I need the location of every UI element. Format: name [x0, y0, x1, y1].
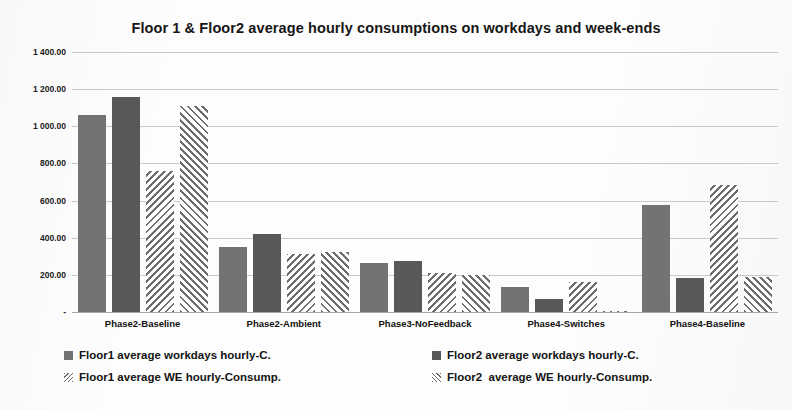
bar[interactable] [569, 282, 597, 312]
y-tick-label: 1 000.00 [6, 121, 66, 131]
y-tick-label: 800.00 [6, 158, 66, 168]
bar[interactable] [321, 252, 349, 312]
legend-label: Floor2 average workdays hourly-C. [447, 349, 639, 361]
axis-baseline [72, 312, 778, 313]
bar[interactable] [744, 277, 772, 312]
x-axis-category-label: Phase4-Baseline [670, 318, 746, 329]
bar-group [78, 52, 208, 312]
legend-item[interactable]: Floor1 average WE hourly-Consump. [64, 366, 281, 388]
legend-swatch-hatch-backslash-icon [64, 373, 73, 382]
legend-label: Floor1 average WE hourly-Consump. [79, 371, 281, 383]
y-tick-label: 1 200.00 [6, 84, 66, 94]
y-tick-label: 600.00 [6, 196, 66, 206]
legend-item[interactable]: Floor2 average WE hourly-Consump. [432, 366, 652, 388]
bar[interactable] [253, 234, 281, 312]
legend-column-floor2: Floor2 average workdays hourly-C. Floor2… [432, 344, 652, 388]
plot-area: 1 400.001 200.001 000.00800.00600.00400.… [72, 52, 778, 312]
y-tick-label: 400.00 [6, 233, 66, 243]
bar[interactable] [428, 273, 456, 312]
bar[interactable] [180, 106, 208, 312]
bar-group [360, 52, 490, 312]
y-tick-label: 200.00 [6, 270, 66, 280]
chart-title: Floor 1 & Floor2 average hourly consumpt… [0, 20, 792, 36]
legend-item[interactable]: Floor1 average workdays hourly-C. [64, 344, 281, 366]
y-tick-label: 1 400.00 [6, 47, 66, 57]
bar[interactable] [676, 278, 704, 312]
x-axis-category-label: Phase3-NoFeedback [379, 318, 472, 329]
bar[interactable] [642, 205, 670, 312]
x-axis-category-label: Phase2-Ambient [247, 318, 321, 329]
legend-swatch-solid-dark-icon [432, 351, 441, 360]
chart-legend: Floor1 average workdays hourly-C. Floor1… [0, 344, 792, 402]
bar[interactable] [603, 311, 631, 312]
bar[interactable] [501, 287, 529, 312]
bar-group [501, 52, 631, 312]
chart-page: Floor 1 & Floor2 average hourly consumpt… [0, 0, 792, 410]
bar[interactable] [710, 185, 738, 312]
legend-swatch-solid-medium-icon [64, 351, 73, 360]
y-tick-label: - [6, 307, 66, 317]
bar-group [642, 52, 772, 312]
bar[interactable] [219, 247, 247, 312]
x-axis-category-label: Phase4-Switches [527, 318, 605, 329]
legend-swatch-hatch-slash-icon [432, 373, 441, 382]
legend-label: Floor1 average workdays hourly-C. [79, 349, 271, 361]
bar[interactable] [78, 115, 106, 312]
bar[interactable] [146, 171, 174, 312]
bar[interactable] [360, 263, 388, 312]
bar[interactable] [112, 97, 140, 312]
legend-label: Floor2 average WE hourly-Consump. [447, 371, 652, 383]
x-axis-category-label: Phase2-Baseline [105, 318, 181, 329]
legend-item[interactable]: Floor2 average workdays hourly-C. [432, 344, 652, 366]
bar[interactable] [535, 299, 563, 312]
legend-column-floor1: Floor1 average workdays hourly-C. Floor1… [64, 344, 281, 388]
bar-group [219, 52, 349, 312]
bar[interactable] [394, 261, 422, 312]
bar[interactable] [287, 254, 315, 312]
bar[interactable] [462, 275, 490, 312]
